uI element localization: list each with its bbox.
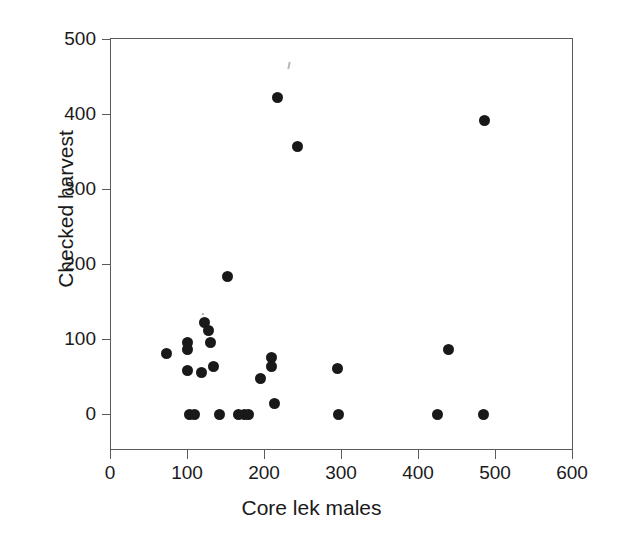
x-axis-tick-label: 500 [465, 462, 525, 483]
data-point [203, 325, 214, 336]
plot-data-area [110, 38, 573, 450]
y-axis-tick [102, 264, 110, 265]
x-axis-tick-label: 100 [157, 462, 217, 483]
data-point [333, 409, 344, 420]
data-point [432, 409, 443, 420]
data-point [266, 361, 277, 372]
scan-artifact-speck [202, 313, 204, 315]
data-point [269, 398, 280, 409]
data-point [208, 361, 219, 372]
data-point [243, 409, 254, 420]
y-axis-tick [102, 114, 110, 115]
y-axis-tick-label: 500 [42, 29, 96, 48]
y-axis-title: Checked harvest [54, 59, 78, 359]
x-axis-tick-label: 400 [388, 462, 448, 483]
x-axis-tick-label: 300 [311, 462, 371, 483]
y-axis-tick [102, 189, 110, 190]
data-point [443, 344, 454, 355]
y-axis-tick [102, 339, 110, 340]
scatter-plot-figure: 0100200300400500 0100200300400500600 Che… [0, 0, 623, 534]
data-point [214, 409, 225, 420]
x-axis-tick-label: 0 [80, 462, 140, 483]
data-point [332, 363, 343, 374]
x-axis-tick [572, 450, 573, 459]
x-axis-tick [187, 450, 188, 459]
data-point [189, 409, 200, 420]
y-axis-tick-label: 0 [42, 404, 96, 423]
data-point [478, 409, 489, 420]
x-axis-tick [418, 450, 419, 459]
data-point [182, 344, 193, 355]
x-axis-tick-label: 200 [234, 462, 294, 483]
data-point [292, 141, 303, 152]
x-axis-tick-label: 600 [542, 462, 602, 483]
y-axis-tick [102, 414, 110, 415]
data-point [272, 92, 283, 103]
data-point [161, 348, 172, 359]
x-axis-tick [495, 450, 496, 459]
data-point [182, 365, 193, 376]
y-axis-tick [102, 39, 110, 40]
data-point [196, 367, 207, 378]
data-point [222, 271, 233, 282]
x-axis-title: Core lek males [0, 496, 623, 520]
x-axis-tick [110, 450, 111, 459]
x-axis-tick [264, 450, 265, 459]
data-point [255, 373, 266, 384]
data-point [479, 115, 490, 126]
data-point [205, 337, 216, 348]
x-axis-tick [341, 450, 342, 459]
